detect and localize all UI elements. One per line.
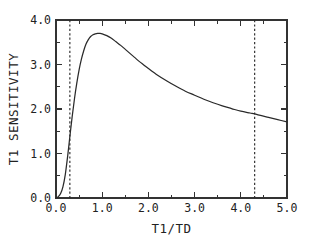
chart-figure: 0.0 1.0 2.0 3.0 4.0 5.0 0.0 1.0 2.0 3.0 …	[0, 0, 315, 241]
x-tick-label: 2.0	[138, 201, 159, 215]
y-tick-label: 1.0	[30, 147, 51, 161]
plot-canvas: 0.0 1.0 2.0 3.0 4.0 5.0 0.0 1.0 2.0 3.0 …	[0, 0, 315, 241]
x-tick-label: 4.0	[230, 201, 251, 215]
x-tick-label: 1.0	[92, 201, 113, 215]
y-tick-label: 0.0	[30, 191, 51, 205]
x-tick-label: 3.0	[184, 201, 205, 215]
x-tick-label: 5.0	[277, 201, 298, 215]
y-tick-label: 4.0	[30, 13, 51, 27]
y-axis-title: T1 SENSITIVITY	[6, 53, 21, 165]
y-tick-label: 3.0	[30, 58, 51, 72]
y-tick-label: 2.0	[30, 102, 51, 116]
x-axis-title: T1/TD	[151, 221, 191, 236]
